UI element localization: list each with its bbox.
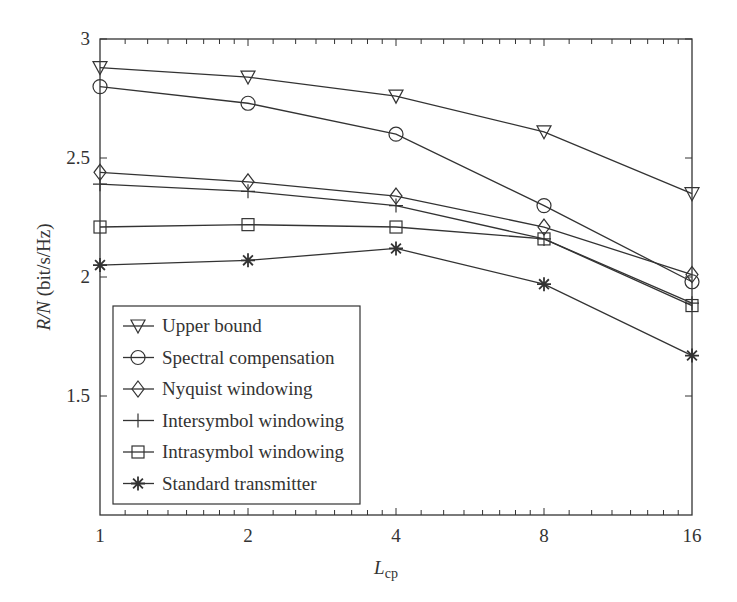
legend-label: Spectral compensation <box>162 347 335 368</box>
x-axis-label: Lcp <box>373 557 398 581</box>
series-upper-bound <box>93 62 699 201</box>
series-intrasymbol-windowing <box>94 219 698 312</box>
star-marker-icon <box>685 349 699 363</box>
plus-marker-icon <box>93 177 107 191</box>
series-nyquist-windowing <box>94 164 698 282</box>
series-line <box>100 68 692 194</box>
y-tick-label: 2 <box>81 266 91 287</box>
y-tick-label: 1.5 <box>66 385 90 406</box>
x-tick-label: 4 <box>391 525 401 546</box>
x-tick-label: 2 <box>243 525 253 546</box>
legend-label: Nyquist windowing <box>162 378 313 399</box>
series-spectral-compensation <box>93 80 699 289</box>
x-axis-label-subscript: cp <box>385 566 398 581</box>
y-tick-label: 3 <box>81 28 91 49</box>
x-tick-label: 1 <box>95 525 105 546</box>
x-axis-label-main: L <box>373 557 385 578</box>
plus-marker-icon <box>241 184 255 198</box>
plus-marker-icon <box>389 199 403 213</box>
star-marker-icon <box>537 277 551 291</box>
legend-label: Standard transmitter <box>162 473 317 494</box>
legend-label: Intrasymbol windowing <box>162 441 345 462</box>
legend-label: Intersymbol windowing <box>162 410 345 431</box>
y-tick-label: 2.5 <box>66 147 90 168</box>
star-marker-icon <box>93 258 107 272</box>
y-axis-label-main: R/N <box>33 300 54 332</box>
line-chart: 124816 1.522.53 Lcp R/N (bit/s/Hz) Upper… <box>0 0 737 602</box>
star-marker-icon <box>389 241 403 255</box>
star-legend-icon <box>131 477 145 491</box>
y-axis-label-unit: (bit/s/Hz) <box>33 223 55 301</box>
legend-label: Upper bound <box>162 315 262 336</box>
x-tick-label: 16 <box>683 525 702 546</box>
legend: Upper boundSpectral compensationNyquist … <box>113 306 360 504</box>
star-marker-icon <box>241 253 255 267</box>
x-tick-label: 8 <box>539 525 549 546</box>
y-axis-label: R/N (bit/s/Hz) <box>33 223 55 331</box>
